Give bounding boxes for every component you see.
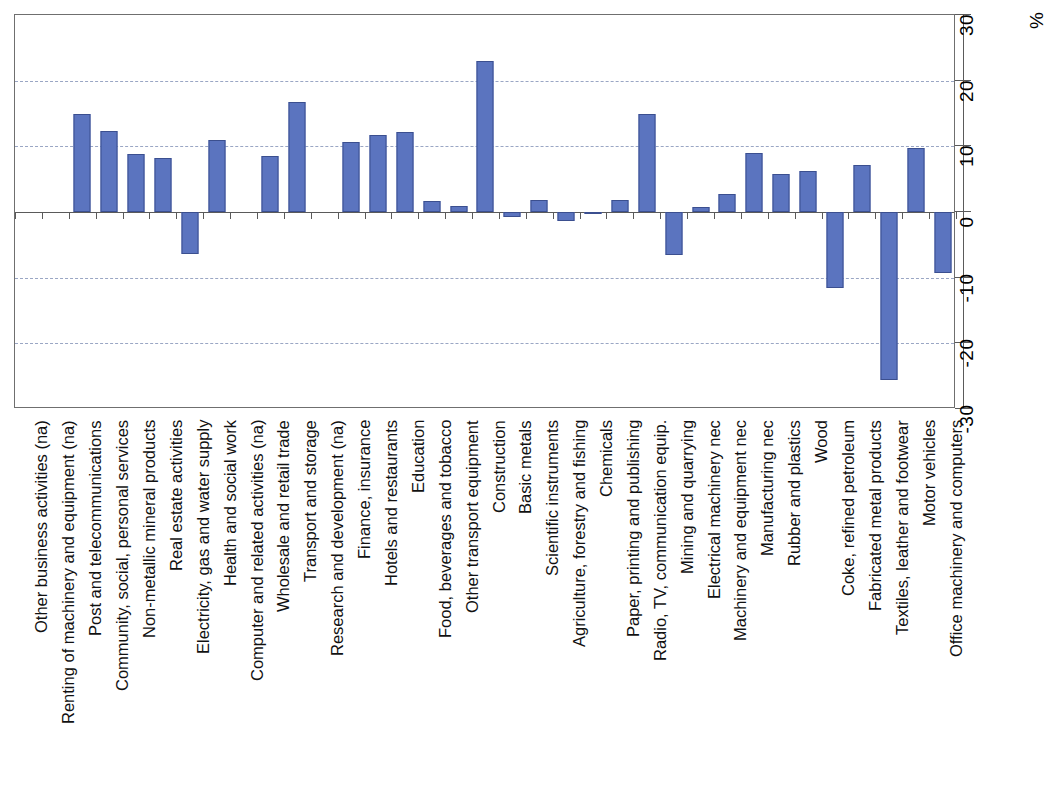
bar xyxy=(369,135,386,212)
y-axis-label: -10 xyxy=(956,268,978,308)
bar xyxy=(907,148,924,212)
y-axis-label: -20 xyxy=(956,333,978,373)
x-axis-tick xyxy=(284,212,285,219)
bar xyxy=(289,102,306,212)
category-label: Other transport equipment xyxy=(464,420,481,613)
category-label: Office machinery and computers xyxy=(948,420,965,657)
x-axis-tick xyxy=(822,212,823,219)
category-label: Wholesale and retail trade xyxy=(275,420,292,612)
y-axis-unit-label: % xyxy=(1026,12,1048,29)
x-axis-tick xyxy=(499,212,500,219)
bar-slot xyxy=(284,15,311,407)
bar-slot xyxy=(929,15,956,407)
category-label: Fabricated metal products xyxy=(867,420,884,611)
bar-slot xyxy=(365,15,392,407)
category-label: Health and social work xyxy=(222,420,239,586)
category-label: Scientific instruments xyxy=(544,420,561,576)
x-axis-tick xyxy=(472,212,473,219)
y-axis-label: 10 xyxy=(956,136,978,176)
category-label: Other business activities (na) xyxy=(33,420,50,633)
bar-slot xyxy=(391,15,418,407)
bar xyxy=(585,212,602,214)
bar-slot xyxy=(69,15,96,407)
x-axis-tick xyxy=(660,212,661,219)
bar xyxy=(719,194,736,212)
bar-slot xyxy=(311,15,338,407)
bar-slot xyxy=(418,15,445,407)
x-axis-tick xyxy=(96,212,97,219)
category-label: Hotels and restaurants xyxy=(383,420,400,586)
category-label: Research and development (na) xyxy=(329,420,346,656)
category-label: Electrical machinery nec xyxy=(706,420,723,599)
x-axis-tick xyxy=(633,212,634,219)
x-axis-tick xyxy=(391,212,392,219)
x-axis-tick xyxy=(553,212,554,219)
bar xyxy=(423,201,440,212)
bar xyxy=(450,206,467,212)
category-label: Education xyxy=(410,420,427,493)
bar-slot xyxy=(123,15,150,407)
bar-slot xyxy=(768,15,795,407)
bar xyxy=(531,200,548,212)
bar xyxy=(181,212,198,254)
y-axis-label: 0 xyxy=(956,202,978,242)
x-axis-tick xyxy=(741,212,742,219)
bar-slot xyxy=(875,15,902,407)
bar xyxy=(127,154,144,212)
bar xyxy=(343,142,360,212)
x-axis-tick xyxy=(176,212,177,219)
category-label: Manufacturing nec xyxy=(759,420,776,556)
bar-slot xyxy=(472,15,499,407)
category-label: Mining and quarrying xyxy=(679,420,696,574)
x-axis-tick xyxy=(149,212,150,219)
category-label: Coke, refined petroleum xyxy=(840,420,857,596)
category-label: Finance, insurance xyxy=(356,420,373,559)
category-label: Non-metallic mineral products xyxy=(141,420,158,638)
bar-slot xyxy=(848,15,875,407)
bar xyxy=(558,212,575,221)
x-axis-tick xyxy=(795,212,796,219)
bar xyxy=(396,132,413,212)
category-label: Rubber and plastics xyxy=(786,420,803,566)
category-label: Textiles, leather and footwear xyxy=(894,420,911,635)
bar-slot xyxy=(203,15,230,407)
bar xyxy=(827,212,844,288)
category-label: Computer and related activities (na) xyxy=(249,420,266,681)
category-label: Food, beverages and tobacco xyxy=(437,420,454,638)
bar xyxy=(880,212,897,380)
x-axis-tick xyxy=(15,212,16,219)
bar-slot xyxy=(15,15,42,407)
bar xyxy=(934,212,951,273)
category-label: Motor vehicles xyxy=(921,420,938,526)
bar-slot xyxy=(606,15,633,407)
x-axis-tick xyxy=(526,212,527,219)
bar-slot xyxy=(338,15,365,407)
x-axis-tick xyxy=(230,212,231,219)
bar-chart: 3020100-10-20-30 % Other business activi… xyxy=(0,0,1052,785)
category-label: Community, social, personal services xyxy=(114,420,131,691)
x-axis-tick xyxy=(123,212,124,219)
x-axis-tick xyxy=(606,212,607,219)
bar-slot xyxy=(902,15,929,407)
category-label: Wood xyxy=(813,420,830,463)
bar xyxy=(154,158,171,212)
category-label: Transport and storage xyxy=(302,420,319,582)
bar-slot xyxy=(553,15,580,407)
bar-slot xyxy=(230,15,257,407)
category-label: Electricity, gas and water supply xyxy=(195,420,212,654)
y-axis-label: 20 xyxy=(956,71,978,111)
bar xyxy=(477,61,494,212)
bar-slot xyxy=(795,15,822,407)
bar xyxy=(692,207,709,212)
bar xyxy=(665,212,682,255)
bar xyxy=(746,153,763,212)
bar-slot xyxy=(687,15,714,407)
bar xyxy=(638,114,655,213)
x-axis-tick xyxy=(257,212,258,219)
x-axis-tick xyxy=(687,212,688,219)
bar-slot xyxy=(257,15,284,407)
y-axis-label: 30 xyxy=(956,5,978,45)
bar xyxy=(74,114,91,212)
bar xyxy=(208,140,225,212)
category-label: Paper, printing and publishing xyxy=(625,420,642,637)
